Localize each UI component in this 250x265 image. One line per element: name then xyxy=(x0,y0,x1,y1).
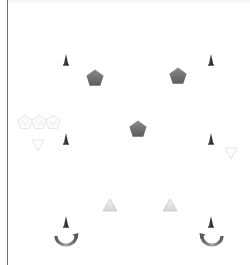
pentagon-token-icon[interactable] xyxy=(129,120,147,138)
cone-marker-icon[interactable] xyxy=(206,53,216,67)
cone-marker-icon[interactable] xyxy=(206,215,216,229)
triangle-token-icon[interactable] xyxy=(102,198,118,212)
cone-marker-icon[interactable] xyxy=(61,215,71,229)
pentagon-token-icon[interactable] xyxy=(169,67,187,85)
pentagon-token-icon[interactable] xyxy=(86,69,104,87)
game-board xyxy=(0,0,250,265)
triangle-token-icon[interactable] xyxy=(162,198,178,212)
ghost-triangle-icon xyxy=(224,147,238,160)
top-edge-shade xyxy=(8,0,250,4)
ghost-pentagon-icon xyxy=(45,114,61,130)
rotate-arrow-icon[interactable] xyxy=(199,232,225,248)
ghost-triangle-icon xyxy=(31,139,45,152)
left-boundary-line xyxy=(7,0,8,265)
cone-marker-icon[interactable] xyxy=(61,132,71,146)
rotate-arrow-icon[interactable] xyxy=(53,232,79,248)
cone-marker-icon[interactable] xyxy=(206,132,216,146)
cone-marker-icon[interactable] xyxy=(61,53,71,67)
